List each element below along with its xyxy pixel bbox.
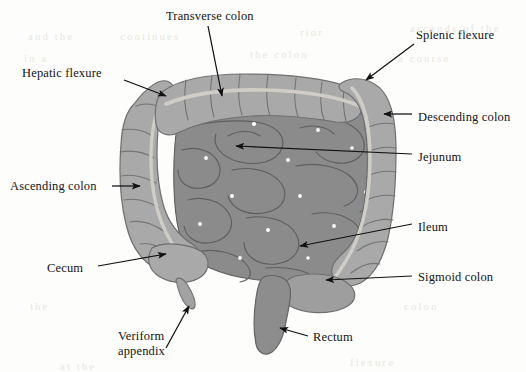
label-ascending-colon: Ascending colon: [10, 179, 97, 194]
veriform-appendix-shape: [176, 278, 195, 309]
label-hepatic-flexure: Hepatic flexure: [22, 66, 102, 81]
label-cecum: Cecum: [47, 261, 83, 276]
label-veriform-appendix-line2: appendix: [118, 344, 188, 359]
label-ileum: Ileum: [418, 220, 448, 235]
leader-splenic-flexure: [366, 44, 414, 80]
label-veriform-appendix: Veriform appendix: [118, 329, 188, 359]
label-descending-colon: Descending colon: [418, 110, 510, 125]
label-sigmoid-colon: Sigmoid colon: [418, 270, 493, 285]
cecum-shape: [149, 244, 208, 283]
label-jejunum: Jejunum: [418, 150, 461, 165]
figure-page: Transverse colon Splenic flexure Hepatic…: [0, 0, 526, 372]
label-veriform-appendix-line1: Veriform: [118, 329, 188, 344]
label-transverse-colon: Transverse colon: [166, 9, 254, 24]
label-splenic-flexure: Splenic flexure: [416, 28, 494, 43]
rectum-shape: [254, 276, 290, 355]
label-rectum: Rectum: [313, 330, 353, 345]
